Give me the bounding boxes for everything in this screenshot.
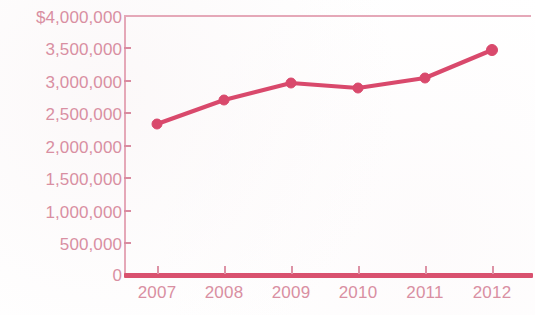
data-point-marker: [286, 78, 296, 88]
data-point-marker: [353, 83, 363, 93]
x-axis-tick-label: 2009: [256, 283, 326, 303]
x-axis-tick-label: 2010: [323, 283, 393, 303]
revenue-line: [157, 50, 492, 124]
x-axis-tick-label: 2011: [390, 283, 460, 303]
line-chart-figure: $4,000,000 3,500,000 3,000,000 2,500,000…: [0, 0, 535, 315]
data-point-marker: [219, 95, 229, 105]
series-plot: [0, 0, 535, 315]
x-axis-tick-label: 2007: [122, 283, 192, 303]
x-axis-tick-label: 2008: [189, 283, 259, 303]
x-axis-tick-label: 2012: [457, 283, 527, 303]
data-point-marker: [420, 73, 430, 83]
data-point-marker: [487, 45, 498, 56]
data-point-marker: [152, 119, 162, 129]
